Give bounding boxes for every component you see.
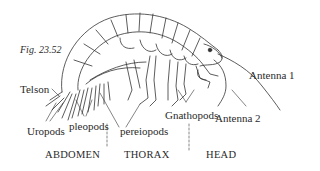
label-antenna-2: Antenna 2	[215, 112, 261, 124]
label-telson: Telson	[20, 83, 49, 95]
pereiopod-legs	[126, 56, 186, 106]
region-abdomen: ABDOMEN	[45, 149, 100, 161]
antennae	[214, 54, 280, 110]
label-gnathopods: Gnathopods	[165, 109, 218, 121]
figure-caption: Fig. 23.52	[20, 44, 61, 56]
label-uropods: Uropods	[27, 125, 65, 137]
abdominal-appendages	[46, 62, 146, 120]
body-outline	[62, 13, 223, 92]
region-thorax: THORAX	[124, 149, 170, 161]
label-pereiopods: pereiopods	[120, 125, 168, 137]
region-head: HEAD	[206, 149, 236, 161]
label-pleopods: pleopods	[69, 120, 109, 132]
label-antenna-1: Antenna 1	[249, 69, 295, 81]
gnathopods	[196, 66, 218, 88]
